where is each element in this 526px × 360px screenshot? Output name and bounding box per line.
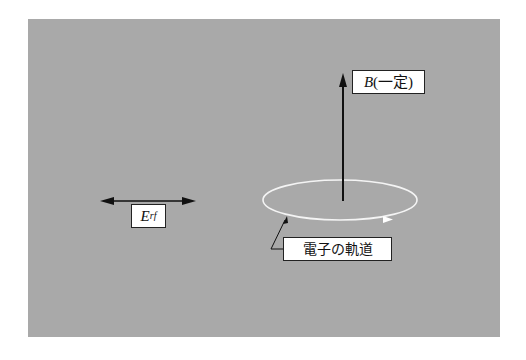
leader-arrowhead-icon (283, 216, 288, 224)
arrowhead-right-icon (182, 197, 196, 205)
arrowhead-up-icon (339, 73, 347, 87)
electron-orbit (263, 180, 417, 223)
b-field-symbol: B (364, 75, 373, 90)
orbit-label: 電子の軌道 (283, 237, 392, 261)
e-field-label: Erf (131, 204, 166, 228)
diagram-art (0, 0, 526, 360)
arrowhead-left-icon (100, 197, 114, 205)
e-field-symbol: E (141, 209, 150, 224)
b-field-arrow (339, 73, 347, 201)
e-field-subscript: rf (150, 211, 157, 221)
b-field-label: B (一定) (352, 70, 425, 94)
b-field-note: (一定) (373, 75, 413, 90)
orbit-direction-arrowhead-icon (383, 216, 393, 223)
